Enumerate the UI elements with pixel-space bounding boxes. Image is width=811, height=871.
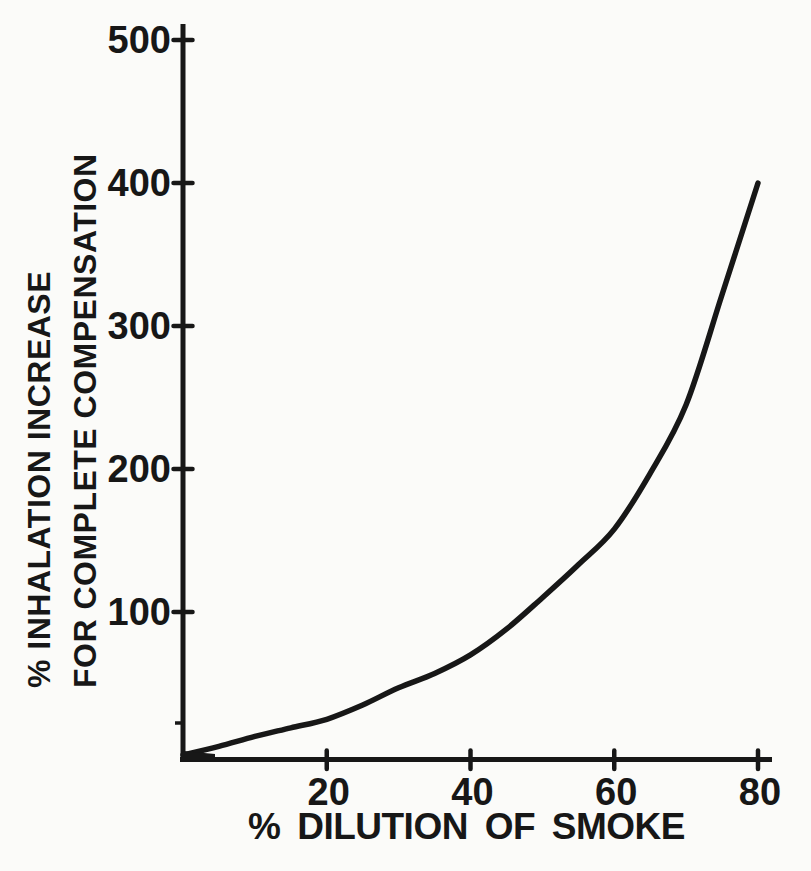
y-tick-label: 400 (108, 162, 171, 204)
y-tick-label: 500 (108, 19, 171, 61)
y-axis-title: % INHALATION INCREASE FOR COMPLETE COMPE… (16, 128, 108, 688)
chart-figure: 10020030040050020406080 % INHALATION INC… (0, 0, 811, 871)
x-axis-title: % DILUTION OF SMOKE (248, 806, 685, 848)
x-tick-label: 80 (739, 771, 781, 813)
y-axis-title-line-2: FOR COMPLETE COMPENSATION (62, 128, 108, 688)
y-tick-label: 100 (108, 591, 171, 633)
y-axis-title-line-1: % INHALATION INCREASE (16, 128, 62, 688)
plot-area: 10020030040050020406080 (0, 0, 811, 871)
data-curve (183, 183, 758, 755)
y-tick-label: 200 (108, 448, 171, 490)
y-tick-label: 300 (108, 305, 171, 347)
